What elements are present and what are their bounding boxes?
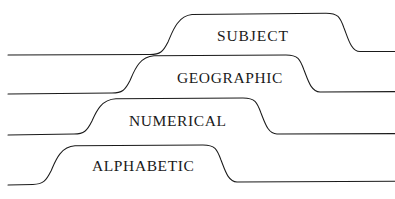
tab-outline-drawing (0, 0, 395, 199)
tab-label-geographic: GEOGRAPHIC (177, 70, 283, 86)
tab-diagram-canvas: SUBJECT GEOGRAPHIC NUMERICAL ALPHABETIC (0, 0, 395, 199)
tab-outline-group (8, 13, 395, 185)
tab-outline-alphabetic (8, 145, 395, 185)
tab-label-alphabetic: ALPHABETIC (92, 158, 194, 174)
tab-label-numerical: NUMERICAL (129, 113, 227, 129)
tab-label-subject: SUBJECT (217, 28, 289, 44)
tab-outline-subject (8, 13, 395, 55)
